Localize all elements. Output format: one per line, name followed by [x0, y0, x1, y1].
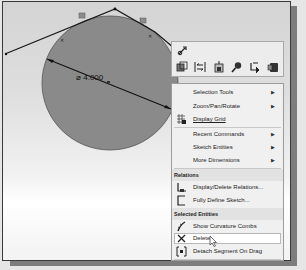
submenu-arrow-icon: ▶	[271, 154, 275, 167]
menu-item-label: Sketch Tools	[193, 258, 227, 261]
tangent-marker: ✕	[148, 33, 152, 39]
menu-item-label: Detach Segment On Drag	[193, 245, 262, 258]
section-header-selected-entities: Selected Entities	[172, 208, 283, 220]
window-shadow-right	[291, 6, 297, 265]
display-style-icon[interactable]	[267, 61, 279, 73]
sketch-endpoint[interactable]	[5, 53, 7, 55]
submenu-arrow-icon: ▶	[271, 100, 275, 113]
rebuild-sketch-icon[interactable]	[176, 45, 188, 57]
menu-item-label: Display/Delete Relations...	[193, 181, 263, 194]
menu-item-recent-commands[interactable]: Recent Commands ▶	[172, 128, 283, 141]
tangent-relation-icon[interactable]	[79, 13, 85, 18]
menu-item-label: Delete	[193, 232, 210, 245]
window-shadow-bottom	[10, 261, 297, 266]
display-grid-icon	[176, 114, 187, 125]
menu-item-display-grid[interactable]: Display Grid	[172, 113, 283, 126]
menu-item-zoom-pan-rotate[interactable]: Zoom/Pan/Rotate ▶	[172, 100, 283, 113]
select-other-icon[interactable]	[249, 61, 261, 73]
context-toolbar	[171, 41, 284, 77]
menu-item-label: Sketch Entities	[193, 141, 233, 154]
diameter-dimension-label[interactable]: ⌀ 4.000	[76, 73, 104, 82]
menu-item-label: Display Grid	[193, 113, 226, 126]
submenu-arrow-icon: ▶	[271, 86, 275, 99]
dimension-icon[interactable]	[194, 61, 206, 73]
fully-define-sketch-icon	[176, 195, 187, 206]
menu-item-sketch-tools[interactable]: Sketch Tools ▶	[172, 258, 283, 261]
menu-item-selection-tools[interactable]: Selection Tools ▶	[172, 86, 283, 99]
sketch-vertex[interactable]	[114, 8, 117, 11]
tangent-marker: ✕	[60, 37, 64, 43]
smart-dimension-icon[interactable]	[213, 61, 225, 73]
menu-item-fully-define-sketch[interactable]: Fully Define Sketch...	[172, 194, 283, 207]
menu-item-display-delete-relations[interactable]: Display/Delete Relations...	[172, 181, 283, 194]
tangent-relation-icon[interactable]	[140, 18, 146, 23]
curvature-combs-icon	[176, 221, 187, 232]
menu-item-label: Fully Define Sketch...	[193, 194, 250, 207]
submenu-arrow-icon: ▶	[271, 258, 275, 261]
menu-item-delete[interactable]: Delete	[172, 232, 283, 245]
menu-item-sketch-entities[interactable]: Sketch Entities ▶	[172, 141, 283, 154]
menu-item-label: More Dimensions	[193, 154, 240, 167]
delete-icon	[176, 233, 187, 244]
zoom-icon[interactable]	[231, 61, 243, 73]
menu-item-detach-segment-on-drag[interactable]: Detach Segment On Drag	[172, 245, 283, 258]
menu-item-more-dimensions[interactable]: More Dimensions ▶	[172, 154, 283, 167]
section-header-relations: Relations	[172, 169, 283, 181]
submenu-arrow-icon: ▶	[271, 141, 275, 154]
submenu-arrow-icon: ▶	[271, 128, 275, 141]
menu-item-label: Selection Tools	[193, 86, 233, 99]
detach-segment-icon	[176, 246, 187, 257]
display-relations-icon	[176, 182, 187, 193]
view-orientation-icon[interactable]	[176, 61, 188, 73]
context-menu: Selection Tools ▶ Zoom/Pan/Rotate ▶ Disp…	[171, 83, 284, 261]
menu-item-label: Zoom/Pan/Rotate	[193, 100, 240, 113]
menu-item-label: Recent Commands	[193, 128, 244, 141]
